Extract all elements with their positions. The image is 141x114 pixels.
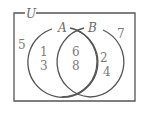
intersection-value-1: 6 <box>72 45 80 59</box>
intersection-value-2: 8 <box>72 59 80 73</box>
b-only-value-1: 2 <box>100 51 108 65</box>
a-only-value-1: 1 <box>40 45 48 59</box>
b-only-value-2: 4 <box>103 65 111 79</box>
venn-diagram: U A B 5 7 1 3 6 8 2 4 <box>0 0 141 114</box>
outside-value-1: 5 <box>18 38 26 52</box>
universe-label: U <box>26 7 37 21</box>
set-a-label: A <box>57 21 67 35</box>
a-only-value-2: 3 <box>40 59 48 73</box>
set-b-label: B <box>87 21 97 35</box>
outside-value-2: 7 <box>117 27 125 41</box>
